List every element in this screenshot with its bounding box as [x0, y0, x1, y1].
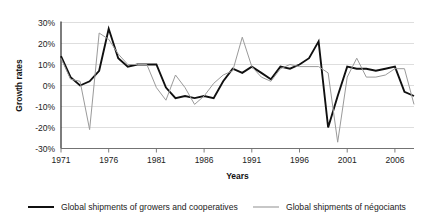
x-axis-tick-label: 1976 [99, 155, 118, 165]
y-axis-tick-label: 20% [38, 39, 55, 49]
x-axis-tick-label: 2006 [385, 155, 404, 165]
chart-legend: Global shipments of growers and cooperat… [28, 202, 406, 212]
y-axis-tick-label: 0% [43, 81, 56, 91]
x-axis-tick-label: 1971 [52, 155, 71, 165]
chart-background [0, 0, 430, 224]
x-axis-tick-label: 2001 [338, 155, 357, 165]
y-axis-tick-label: -30% [35, 144, 55, 154]
legend-label-2: Global shipments of négociants [286, 202, 406, 212]
y-axis-tick-label: 10% [38, 60, 55, 70]
legend-label-1: Global shipments of growers and cooperat… [61, 202, 238, 212]
y-axis-title: Growth rates [14, 59, 24, 112]
y-axis-tick-label: 30% [38, 18, 55, 28]
x-axis-tick-label: 1986 [195, 155, 214, 165]
y-axis-tick-label: -10% [35, 102, 55, 112]
x-axis-title: Years [226, 171, 249, 181]
x-axis-tick-label: 1996 [290, 155, 309, 165]
y-axis-tick-label: -20% [35, 123, 55, 133]
growth-rates-line-chart: 30%20%10%0%-10%-20%-30% 1971197619811986… [0, 0, 430, 224]
chart-figure: 30%20%10%0%-10%-20%-30% 1971197619811986… [0, 0, 430, 224]
x-axis-tick-label: 1991 [242, 155, 261, 165]
x-axis-tick-label: 1981 [147, 155, 166, 165]
